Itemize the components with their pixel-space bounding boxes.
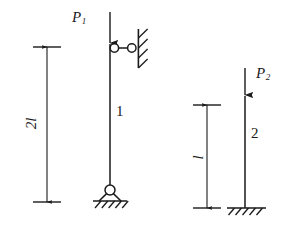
- load-label-p1-symbol: P: [72, 9, 81, 25]
- load-label-p2-subscript: 2: [266, 72, 271, 82]
- load-label-p2: P2: [256, 66, 270, 82]
- hatch-icon: [138, 29, 147, 68]
- horizontal-link-support: [110, 29, 147, 68]
- pin-leg-right: [113, 194, 121, 201]
- figure-root: P1 1 2l P2 2 l: [0, 0, 292, 248]
- dimension-l-label: l: [191, 155, 206, 159]
- bar-2-group: [227, 68, 266, 215]
- fixed-ground-support: [227, 208, 266, 215]
- pin-leg-left: [99, 194, 107, 201]
- diagram-canvas: [0, 0, 292, 248]
- load-label-p1: P1: [72, 10, 86, 26]
- hatch-icon: [229, 208, 263, 215]
- hatch-icon: [95, 201, 128, 208]
- load-label-p1-subscript: 1: [82, 16, 87, 26]
- bar-2-label: 2: [251, 126, 259, 141]
- load-label-p2-symbol: P: [256, 65, 265, 81]
- bar-1-label: 1: [116, 104, 124, 119]
- pin-circle-icon: [110, 44, 118, 52]
- pin-circle-icon: [128, 44, 136, 52]
- dimension-2l-label: 2l: [24, 118, 39, 130]
- pin-support: [93, 185, 128, 208]
